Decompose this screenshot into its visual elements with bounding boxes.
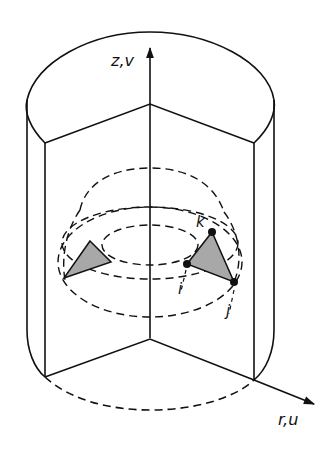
bottom-cut-edge xyxy=(45,339,254,380)
z-axis-label: z,v xyxy=(110,51,134,70)
node-i-dot xyxy=(183,260,191,268)
node-j-dot xyxy=(230,278,238,286)
outer-left-edge xyxy=(27,100,45,377)
r-axis-label: r,u xyxy=(278,410,298,429)
r-axis xyxy=(254,380,314,404)
ring-outer-top xyxy=(80,168,224,212)
node-k-label: k xyxy=(196,213,206,231)
cylinder-diagram: z,v r,u k i j xyxy=(0,0,330,454)
node-i-label: i xyxy=(178,280,183,298)
outer-right-edge xyxy=(254,100,274,380)
bottom-hidden-arc xyxy=(45,377,254,410)
node-k-dot xyxy=(208,228,216,236)
node-j-label: j xyxy=(224,302,231,320)
